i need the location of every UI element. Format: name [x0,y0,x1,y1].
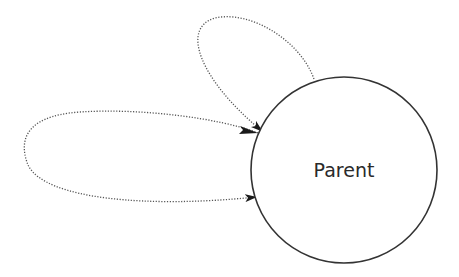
edge-self-loop-left [24,111,258,201]
arrowhead-icon [239,126,258,134]
node-parent[interactable]: Parent [251,77,437,263]
node-parent-label: Parent [314,159,375,181]
diagram-canvas: Parent [0,0,459,277]
